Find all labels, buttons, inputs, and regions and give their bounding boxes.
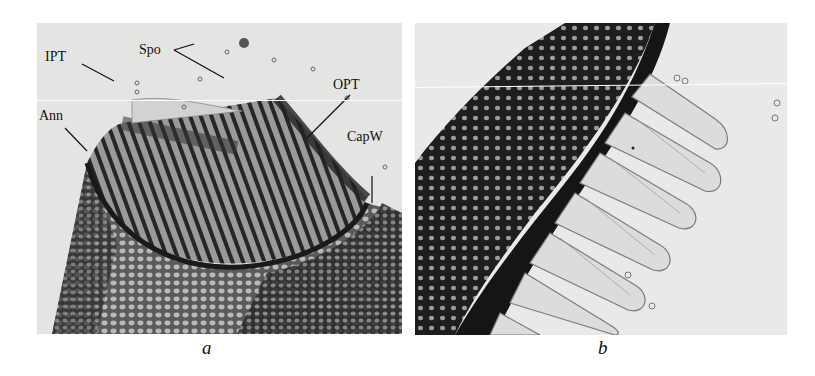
annotation-ann: Ann: [39, 108, 63, 124]
micrograph-b-image: [415, 23, 787, 335]
micrograph-panel-a: IPT Spo OPT Ann CapW: [37, 23, 402, 334]
annotation-spo: Spo: [139, 42, 161, 58]
micrograph-a-image: [37, 23, 402, 334]
micrograph-panel-b: [415, 23, 787, 335]
annotation-capw: CapW: [347, 129, 383, 145]
panel-a-caption: a: [202, 337, 212, 359]
annotation-ipt: IPT: [45, 49, 66, 65]
panel-b-caption: b: [598, 337, 608, 359]
annotation-opt: OPT: [333, 77, 359, 93]
scan-artifact-line: [37, 100, 402, 101]
